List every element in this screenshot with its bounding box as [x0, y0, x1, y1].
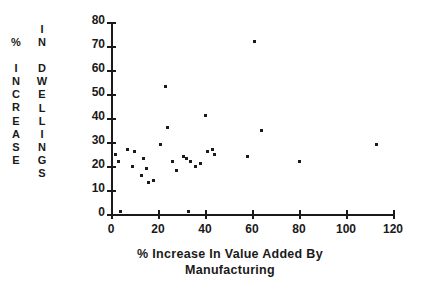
y-tick-mark	[107, 22, 116, 24]
y-tick-label: 50	[75, 86, 105, 99]
data-point	[187, 210, 190, 213]
data-point	[375, 143, 378, 146]
x-tick-mark	[158, 210, 160, 219]
x-tick-label: 80	[279, 222, 319, 236]
y-tick-mark	[107, 46, 116, 48]
x-tick-mark	[205, 210, 207, 219]
y-tick-label: 80	[75, 14, 105, 27]
data-point	[119, 210, 122, 213]
x-tick-mark	[393, 210, 395, 219]
x-tick-label: 100	[326, 222, 366, 236]
data-point	[164, 85, 167, 88]
data-point	[171, 160, 174, 163]
data-point	[159, 143, 162, 146]
data-point	[199, 162, 202, 165]
data-point	[246, 155, 249, 158]
data-point	[185, 157, 188, 160]
x-axis-title: % Increase In Value Added By Manufacturi…	[60, 246, 400, 278]
y-tick-label: 30	[75, 134, 105, 147]
data-point	[133, 150, 136, 153]
x-tick-mark	[111, 210, 113, 219]
data-point	[131, 165, 134, 168]
x-tick-label: 40	[185, 222, 225, 236]
y-tick-mark	[107, 166, 116, 168]
data-point	[260, 129, 263, 132]
data-point	[126, 148, 129, 151]
y-tick-label: 60	[75, 62, 105, 75]
data-point	[152, 179, 155, 182]
x-tick-label: 60	[232, 222, 272, 236]
y-tick-label: 0	[75, 206, 105, 219]
data-point	[140, 174, 143, 177]
data-point	[147, 181, 150, 184]
x-tick-label: 20	[138, 222, 178, 236]
data-point	[204, 114, 207, 117]
x-tick-label: 120	[373, 222, 413, 236]
data-point	[175, 169, 178, 172]
data-point	[298, 160, 301, 163]
x-tick-label: 0	[91, 222, 131, 236]
scatter-plot-figure: % I N C R E A S E I N D W E L L I N G S …	[0, 0, 423, 295]
data-point	[114, 153, 117, 156]
data-point	[117, 160, 120, 163]
data-point	[211, 148, 214, 151]
data-point	[189, 160, 192, 163]
data-point	[253, 40, 256, 43]
x-tick-mark	[346, 210, 348, 219]
y-tick-label: 20	[75, 158, 105, 171]
data-point	[194, 165, 197, 168]
data-point	[206, 150, 209, 153]
data-point	[142, 157, 145, 160]
y-tick-mark	[107, 142, 116, 144]
plot-area: 01020304050607080 020406080100120	[111, 22, 393, 215]
data-point	[166, 126, 169, 129]
yaxis-label-column-in-dwellings: I N D W E L L I N G S	[34, 23, 50, 180]
x-tick-mark	[299, 210, 301, 219]
y-tick-mark	[107, 190, 116, 192]
y-tick-mark	[107, 94, 116, 96]
y-tick-label: 40	[75, 110, 105, 123]
y-tick-label: 70	[75, 38, 105, 51]
x-tick-mark	[252, 210, 254, 219]
y-tick-label: 10	[75, 182, 105, 195]
data-point	[213, 153, 216, 156]
yaxis-label-column-percent-increase: % I N C R E A S E	[8, 36, 24, 167]
y-tick-mark	[107, 118, 116, 120]
y-tick-mark	[107, 70, 116, 72]
data-point	[145, 167, 148, 170]
